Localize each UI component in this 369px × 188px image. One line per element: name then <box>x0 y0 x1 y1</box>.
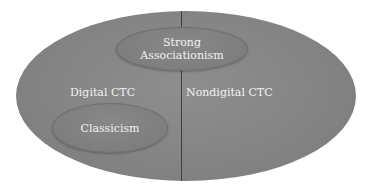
strong-associationism-line2: Associationism <box>140 49 223 62</box>
digital-ctc-label: Digital CTC <box>70 86 135 99</box>
ctc-diagram: Digital CTC Nondigital CTC Strong Associ… <box>0 0 369 188</box>
strong-associationism-label: Strong Associationism <box>140 36 223 62</box>
strong-associationism-line1: Strong <box>140 36 223 49</box>
classicism-ellipse: Classicism <box>52 103 168 153</box>
classicism-label: Classicism <box>80 122 139 135</box>
nondigital-ctc-label: Nondigital CTC <box>186 86 273 99</box>
strong-associationism-ellipse: Strong Associationism <box>116 27 248 71</box>
